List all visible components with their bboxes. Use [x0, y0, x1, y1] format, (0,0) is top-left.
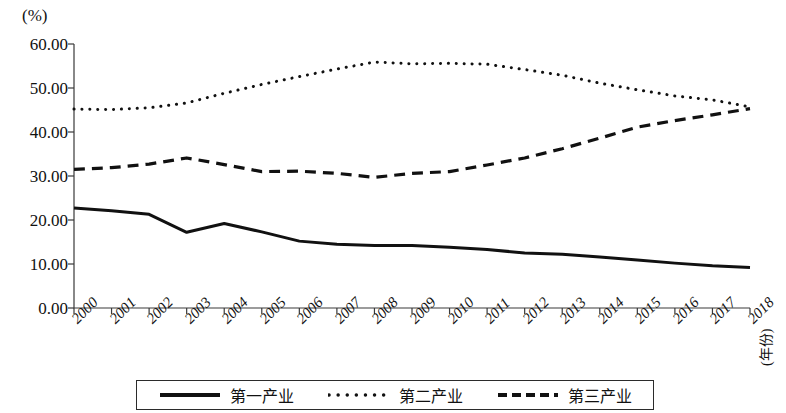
legend-label: 第三产业 — [568, 383, 632, 407]
x-axis-tick-label: 2010 — [445, 295, 477, 327]
x-axis-tick-label: 2006 — [294, 295, 326, 327]
chart-legend: 第一产业第二产业第三产业 — [136, 380, 654, 410]
legend-label: 第二产业 — [399, 383, 463, 407]
x-axis-tick-label: 2007 — [332, 295, 364, 327]
x-axis-tick-label: 2018 — [745, 295, 777, 327]
x-axis-tick-label: 2000 — [69, 295, 101, 327]
x-axis-tick-label: 2009 — [407, 295, 439, 327]
x-axis-tick-label: 2016 — [670, 295, 702, 327]
legend-label: 第一产业 — [230, 383, 294, 407]
x-axis-tick-label: 2008 — [369, 295, 401, 327]
chart-container: (%) 0.0010.0020.0030.0040.0050.0060.00 2… — [0, 0, 786, 413]
legend-entry-2[interactable]: 第二产业 — [328, 383, 463, 407]
x-axis-tick-label: 2004 — [219, 295, 251, 327]
x-axis-title: (年份) — [760, 329, 774, 366]
x-axis-tick-label: 2015 — [632, 295, 664, 327]
legend-swatch-dashed — [497, 389, 559, 401]
legend-entry-3[interactable]: 第三产业 — [497, 383, 632, 407]
x-axis-tick-label: 2013 — [557, 295, 589, 327]
x-axis-tick-label: 2005 — [257, 295, 289, 327]
x-axis-tick-label: 2014 — [595, 295, 627, 327]
x-axis-tick-label: 2017 — [707, 295, 739, 327]
x-axis-tick-label: 2001 — [107, 295, 139, 327]
x-axis-tick-labels: 2000200120022003200420052006200720082009… — [0, 0, 786, 413]
legend-entry-1[interactable]: 第一产业 — [159, 383, 294, 407]
legend-swatch-dotted — [328, 389, 390, 401]
x-axis-tick-label: 2012 — [520, 295, 552, 327]
legend-swatch-solid — [159, 389, 221, 401]
x-axis-tick-label: 2003 — [182, 295, 214, 327]
x-axis-tick-label: 2011 — [482, 296, 513, 327]
x-axis-tick-label: 2002 — [144, 295, 176, 327]
